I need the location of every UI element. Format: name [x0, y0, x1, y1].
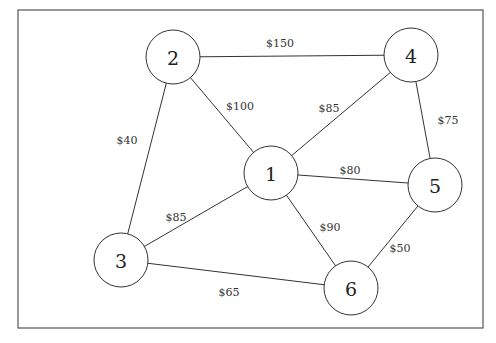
edge-2-3 [121, 57, 173, 260]
node-3: 3 [94, 233, 148, 287]
node-4: 4 [384, 28, 438, 82]
edge-weight-label-2-3: $40 [117, 134, 138, 147]
node-label: 5 [429, 175, 441, 197]
graph-diagram: $150$100$40$85$75$80$90$85$50$65 123456 [0, 0, 496, 343]
node-label: 6 [345, 278, 357, 300]
edge-weight-label-4-1: $85 [319, 102, 340, 115]
node-6: 6 [324, 261, 378, 315]
node-5: 5 [408, 158, 462, 212]
node-2: 2 [146, 30, 200, 84]
node-label: 3 [115, 250, 127, 272]
node-label: 2 [167, 47, 179, 69]
edge-weight-label-5-6: $50 [390, 242, 411, 255]
edge-weight-label-1-3: $85 [166, 211, 187, 224]
nodes-layer: 123456 [94, 28, 462, 315]
edge-weight-label-4-5: $75 [438, 114, 459, 127]
node-label: 4 [405, 45, 417, 67]
edge-2-4 [173, 55, 411, 57]
node-label: 1 [265, 163, 277, 185]
edge-weight-label-1-5: $80 [340, 164, 361, 177]
edge-3-6 [121, 260, 351, 288]
edge-weight-label-2-1: $100 [226, 100, 254, 113]
edge-weight-label-2-4: $150 [266, 37, 294, 50]
node-1: 1 [244, 146, 298, 200]
edge-weight-label-1-6: $90 [320, 221, 341, 234]
edge-weight-label-3-6: $65 [219, 286, 240, 299]
